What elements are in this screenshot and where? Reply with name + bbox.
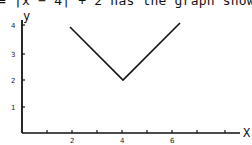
y-tick-label-1: 1 [11, 104, 15, 112]
x-tick-label-6: 6 [170, 137, 175, 145]
y-tick-label-4: 4 [11, 22, 16, 30]
y-tick-label-2: 2 [11, 77, 15, 85]
x-axis-label: X [243, 126, 251, 140]
y-axis-label: y [23, 9, 30, 23]
y-tick-label-3: 3 [11, 51, 15, 59]
x-tick-label-4: 4 [120, 137, 125, 145]
v-shaped-graph-line [70, 23, 180, 80]
x-tick-label-2: 2 [70, 137, 74, 145]
graph: 2 4 6 1 2 3 4 X y [0, 0, 252, 145]
